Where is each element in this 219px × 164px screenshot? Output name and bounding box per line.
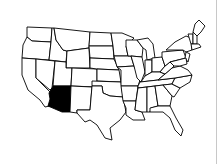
state-new-york <box>166 36 192 52</box>
state-new-mexico <box>70 86 92 113</box>
state-south-dakota <box>89 46 114 59</box>
state-florida <box>150 106 183 136</box>
state-north-dakota <box>89 32 113 46</box>
state-wyoming <box>66 48 90 68</box>
states <box>22 20 205 140</box>
state-maine <box>193 20 205 36</box>
state-arizona <box>48 86 71 112</box>
state-massachusetts <box>191 44 201 50</box>
state-arkansas <box>121 86 138 101</box>
state-kansas <box>97 69 121 82</box>
state-iowa <box>114 56 134 67</box>
us-map <box>0 0 219 164</box>
